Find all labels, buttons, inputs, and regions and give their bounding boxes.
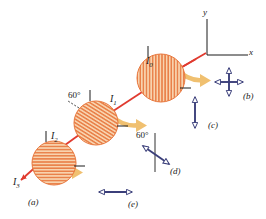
intensity-label-I2: I2 [51, 131, 58, 144]
sheet-2-angle-label: 60° [68, 91, 81, 100]
legend-d-diagonal [143, 146, 169, 164]
legend-arrow-b [215, 68, 243, 96]
legend-label-d: (d) [170, 167, 181, 176]
coordinate-axes [207, 19, 248, 55]
legend-label-c: (c) [208, 121, 218, 130]
axis-label-x: x [249, 48, 253, 57]
intensity-label-I3: I3 [13, 177, 20, 190]
polarizer-figure [0, 0, 266, 219]
curved-arrow-head-1 [200, 74, 211, 87]
legend-d-angle-label: 60° [136, 131, 149, 140]
legend-label-e: (e) [128, 200, 138, 209]
sheet-2-angle-ray [68, 101, 79, 108]
axis-label-y: y [203, 8, 207, 17]
intensity-label-I1: I1 [110, 94, 117, 107]
legend-label-b: (b) [243, 92, 254, 101]
polarizer-sheet-3 [32, 131, 85, 185]
legend-label-a: (a) [28, 198, 39, 207]
intensity-label-I0: I0 [146, 56, 153, 69]
